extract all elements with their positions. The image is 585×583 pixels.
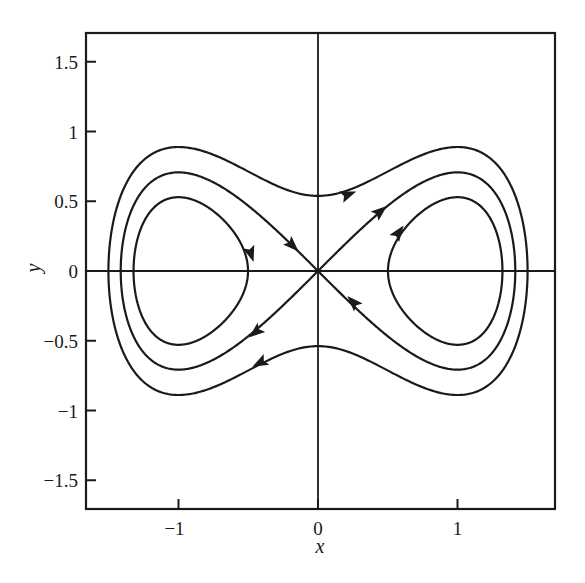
x-tick-label: −1 xyxy=(164,518,184,539)
y-tick-label: 1 xyxy=(69,122,79,143)
x-axis-label: x xyxy=(315,535,325,557)
y-axis-label: y xyxy=(22,263,45,274)
phase-portrait-chart: −101 1.510.50−0.5−1−1.5 x y xyxy=(0,0,585,583)
y-tick-label: −1.5 xyxy=(44,470,78,491)
y-axis-ticks: 1.510.50−0.5−1−1.5 xyxy=(44,52,96,492)
x-axis-ticks: −101 xyxy=(164,499,462,539)
x-tick-label: 1 xyxy=(453,518,463,539)
flow-arrow-icon xyxy=(339,191,356,202)
y-tick-label: 0 xyxy=(69,261,79,282)
y-tick-label: −1 xyxy=(58,401,78,422)
y-tick-label: 1.5 xyxy=(54,52,78,73)
y-tick-label: −0.5 xyxy=(44,331,78,352)
y-tick-label: 0.5 xyxy=(54,191,78,212)
direction-arrows xyxy=(243,191,404,366)
